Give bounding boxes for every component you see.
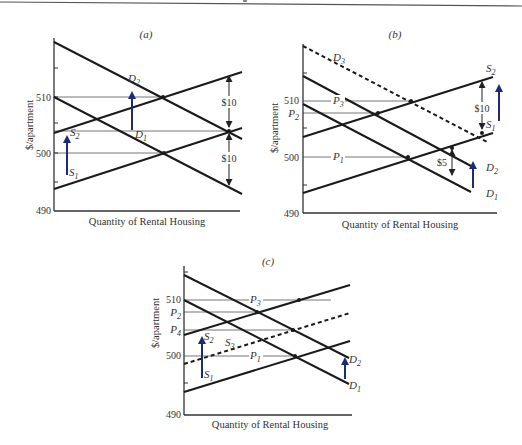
label-d3: D3 [332,51,345,66]
label-s3: S3 [225,336,235,351]
panel-c: (c) 510 P2 P4 500 490 $/apartment Quanti… [150,255,361,430]
y-tick-p2: P2 [169,306,181,321]
label-d2: D2 [485,161,498,176]
supply-curve-s2 [184,285,350,335]
y-tick-p4: P4 [169,323,181,338]
x-axis-label: Quantity of Rental Housing [342,219,459,230]
label-s2: S2 [204,330,214,345]
y-tick-490: 490 [284,208,299,219]
y-axis-label: $/apartment [24,100,35,150]
dimension-label-lower: $10 [222,153,237,164]
y-tick-500: 500 [36,148,51,159]
y-tick-510: 510 [166,294,181,305]
dimension-label-upper: $10 [222,97,237,108]
y-axis-label: $/apartment [269,103,280,153]
page-header-mark [243,0,247,2]
dimension-label-5: $5 [437,157,447,168]
y-tick-490: 490 [166,409,181,420]
panel-b-title: (b) [389,28,402,41]
label-s1: S1 [69,166,79,181]
figure-canvas: (a) 510 500 490 $/apartment Quantity of … [0,0,522,445]
label-d1: D1 [348,379,361,394]
label-d2: D2 [348,353,361,368]
panel-a: (a) 510 500 490 $/apartment Quantity of … [24,28,242,227]
panel-b: (b) 510 P2 500 490 $/apartment Quantity … [269,28,499,230]
x-axis-label: Quantity of Rental Housing [89,216,206,227]
y-tick-p2: P2 [287,107,299,122]
y-tick-510: 510 [36,92,51,103]
label-s1: S1 [204,368,214,383]
page-header-rule [0,2,522,6]
label-s2: S2 [486,62,496,77]
panel-a-title: (a) [140,28,153,41]
label-s2: S2 [70,126,80,141]
label-d1: D1 [485,187,498,202]
supply-curve-s1 [184,341,350,392]
label-s1: S1 [486,118,496,133]
y-axis-label: $/apartment [150,298,161,348]
y-tick-500: 500 [284,152,299,163]
y-tick-510: 510 [284,95,299,106]
figure: (a) 510 500 490 $/apartment Quantity of … [0,0,522,445]
y-tick-490: 490 [36,205,51,216]
dimension-label-10: $10 [475,103,490,114]
y-tick-500: 500 [166,350,181,361]
demand-curve-d2 [184,275,349,358]
label-d2: D2 [127,72,140,87]
panel-c-title: (c) [262,255,275,268]
x-axis-label: Quantity of Rental Housing [212,419,329,430]
